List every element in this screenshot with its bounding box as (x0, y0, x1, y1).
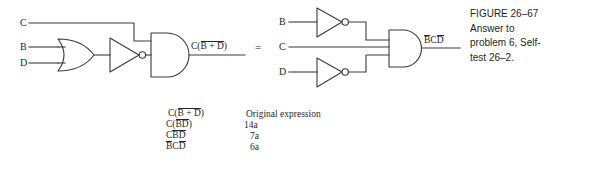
derivation-row: C(BD) 14a (163, 119, 321, 130)
wire-notd-to-and (348, 55, 389, 72)
inverter-left (110, 38, 146, 72)
expr-d-bar: D (182, 119, 189, 130)
derivation-row: C(B + D) Original expression (163, 108, 321, 119)
input-label-d-left: D (20, 58, 27, 68)
caption-line: problem 6, Self- (470, 36, 586, 51)
expr-prefix: C( (166, 119, 176, 129)
output-expression-left: C(B + D) (191, 41, 227, 52)
derivation-row: CBD 7a (163, 130, 321, 141)
output-expression-right: BCD (424, 35, 444, 46)
derivation-note: 6a (244, 142, 259, 152)
derivation-table: C(B + D) Original expression C(BD) 14a C… (163, 108, 321, 152)
figure-caption: FIGURE 26–67 Answer to problem 6, Self- … (470, 7, 586, 65)
or-gate-left (58, 39, 94, 71)
output-left-suffix: ) (224, 41, 227, 51)
inverter-b-right (317, 8, 348, 37)
wire-notb-to-and (348, 22, 389, 40)
input-label-d-right: D (279, 67, 286, 77)
input-label-b-right: B (279, 17, 286, 27)
expr-suffix: ) (201, 108, 204, 118)
derivation-expression: C(B + D) (163, 108, 246, 119)
inverter-d-right (317, 58, 348, 87)
derivation-note: Original expression (246, 109, 321, 119)
wire-c-left (29, 23, 151, 41)
caption-line: FIGURE 26–67 (470, 7, 586, 22)
input-label-b-left: B (20, 42, 27, 52)
equals-sign: = (255, 41, 261, 53)
derivation-expression: CBD (163, 130, 244, 141)
expr-suffix: ) (189, 119, 192, 129)
expr-overbar-term: B + D (178, 108, 201, 119)
expr-d-bar: D (179, 141, 186, 152)
output-left-prefix: C( (191, 41, 201, 51)
derivation-note: 14a (244, 120, 258, 130)
expr-prefix: C( (168, 108, 178, 118)
expr-d-bar: D (179, 130, 186, 141)
derivation-expression: C(BD) (163, 119, 244, 130)
caption-line: test 26–2. (470, 51, 586, 66)
input-label-c-right: C (279, 42, 286, 52)
figure-container: C B D C(B + D) = B C D BCD C(B + D) Orig… (0, 0, 592, 174)
derivation-expression: BCD (163, 141, 244, 152)
derivation-note: 7a (244, 131, 259, 141)
output-right-d-bar: D (437, 35, 444, 46)
input-label-c-left: C (20, 18, 27, 28)
output-left-overbar-term: B + D (201, 41, 224, 52)
and-gate-right (389, 30, 422, 67)
derivation-row: BCD 6a (163, 141, 321, 152)
and-gate-left (151, 33, 189, 77)
caption-line: Answer to (470, 22, 586, 37)
